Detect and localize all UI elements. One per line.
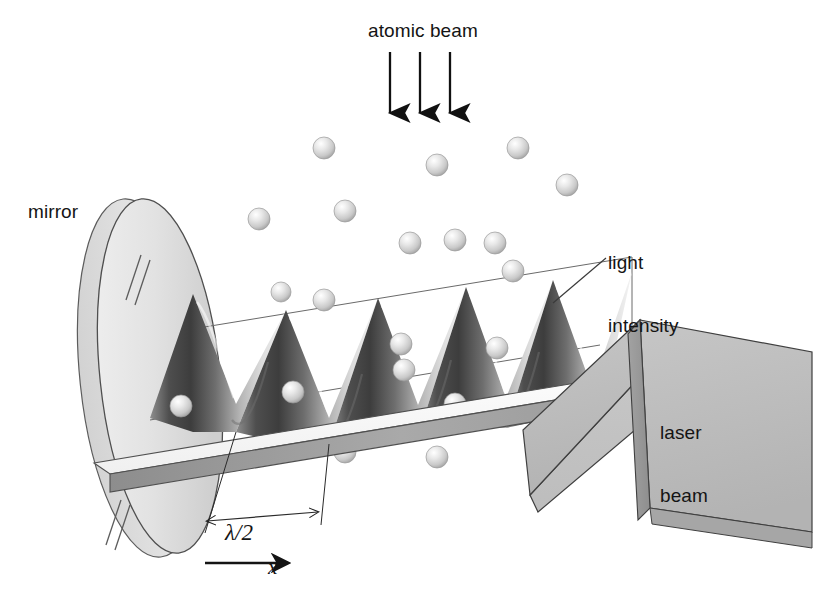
atom-sphere — [399, 232, 421, 254]
atom-sphere — [507, 137, 529, 159]
falling-atom-group — [248, 137, 578, 302]
atom-sphere — [390, 333, 412, 355]
atom-sphere — [502, 260, 524, 282]
light-intensity-label: light intensity — [608, 209, 679, 379]
lambda-half-label: λ/2 — [225, 520, 253, 546]
light-intensity-leader-line — [553, 258, 606, 303]
laser-beam-label-line1: laser — [660, 422, 708, 443]
figure-canvas: atomic beam mirror light intensity laser… — [0, 0, 822, 610]
laser-beam-label: laser beam — [660, 379, 708, 549]
atom-sphere — [426, 154, 448, 176]
atom-sphere — [486, 337, 508, 359]
atomic-beam-label: atomic beam — [368, 20, 478, 41]
atom-sphere — [313, 289, 335, 311]
atom-sphere — [248, 208, 270, 230]
atom-sphere — [313, 137, 335, 159]
atomic-beam-arrow-group — [390, 52, 450, 113]
atom-sphere — [484, 232, 506, 254]
lambda-dimension-line — [207, 512, 318, 521]
atom-sphere — [282, 381, 304, 403]
atom-sphere — [334, 200, 356, 222]
atom-sphere — [426, 446, 448, 468]
x-axis-label: x — [268, 556, 277, 580]
light-intensity-label-line1: light — [608, 252, 679, 273]
atom-sphere — [556, 174, 578, 196]
atom-sphere — [170, 395, 192, 417]
laser-beam-label-line2: beam — [660, 485, 708, 506]
atom-sphere — [271, 282, 291, 302]
mirror-label: mirror — [28, 201, 78, 222]
atom-sphere — [444, 229, 466, 251]
light-intensity-label-line2: intensity — [608, 315, 679, 336]
atom-sphere — [393, 359, 415, 381]
